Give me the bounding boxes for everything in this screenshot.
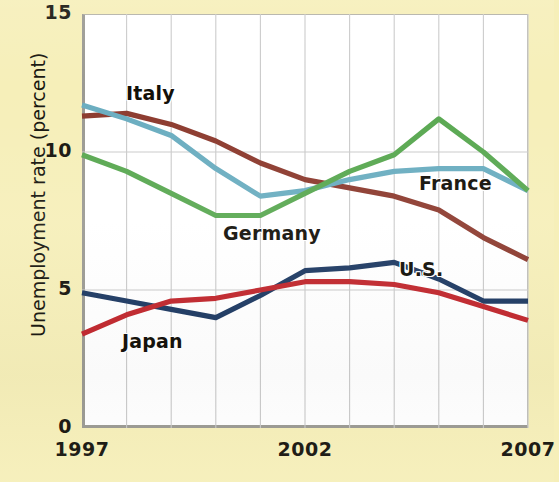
series-label-japan: Japan <box>122 330 183 352</box>
series-label-france: France <box>419 172 492 194</box>
x-tick-label: 2002 <box>260 438 350 460</box>
y-axis-title: Unemployment rate (percent) <box>27 77 49 337</box>
series-label-italy: Italy <box>126 82 175 104</box>
y-tick-label: 15 <box>20 1 72 23</box>
y-tick-label: 0 <box>20 415 72 437</box>
x-tick-label: 2007 <box>483 438 559 460</box>
series-label-us: U.S. <box>399 258 443 280</box>
series-label-germany: Germany <box>223 222 321 244</box>
x-tick-label: 1997 <box>37 438 127 460</box>
